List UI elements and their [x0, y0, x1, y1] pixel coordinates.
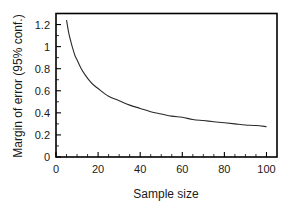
y-tick-label: 1.2 — [35, 19, 50, 31]
x-tick-label: 40 — [134, 163, 146, 175]
y-axis-tick-labels: 00.20.40.60.811.2 — [35, 19, 50, 163]
x-tick-label: 20 — [92, 163, 104, 175]
x-tick-label: 100 — [257, 163, 275, 175]
y-tick-label: 0.4 — [35, 107, 50, 119]
x-axis-tick-labels: 020406080100 — [53, 163, 276, 175]
x-axis-title: Sample size — [133, 187, 199, 201]
chart-figure: 020406080100 00.20.40.60.811.2 Sample si… — [0, 0, 286, 206]
y-tick-label: 0.8 — [35, 63, 50, 75]
y-tick-label: 0.6 — [35, 85, 50, 97]
x-axis-ticks — [56, 152, 266, 157]
y-tick-label: 0 — [44, 151, 50, 163]
y-tick-label: 1 — [44, 41, 50, 53]
x-tick-label: 0 — [53, 163, 59, 175]
x-tick-label: 80 — [218, 163, 230, 175]
margin-of-error-curve — [67, 20, 267, 127]
y-axis-title: Margin of error (95% conf.) — [11, 14, 25, 157]
x-tick-label: 60 — [176, 163, 188, 175]
y-tick-label: 0.2 — [35, 129, 50, 141]
plot-frame — [56, 14, 277, 158]
line-chart: 020406080100 00.20.40.60.811.2 Sample si… — [0, 0, 286, 206]
